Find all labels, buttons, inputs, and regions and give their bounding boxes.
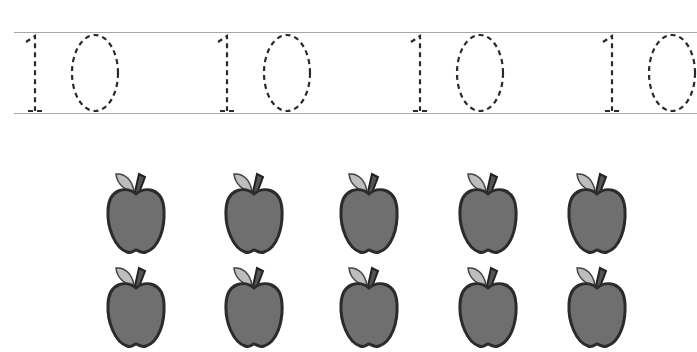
dashed-ten-icon (599, 32, 697, 114)
apple (566, 170, 628, 256)
apple (223, 170, 285, 256)
apple-icon (338, 170, 400, 256)
apple-icon (566, 170, 628, 256)
apple (105, 170, 167, 256)
apple-icon (566, 264, 628, 350)
apple (457, 170, 519, 256)
apple-icon (223, 170, 285, 256)
dashed-ten-icon (214, 32, 314, 114)
traceable-number-ten (214, 32, 314, 114)
apple-icon (223, 264, 285, 350)
apple (223, 264, 285, 350)
apple-icon (457, 264, 519, 350)
apple (566, 264, 628, 350)
dashed-ten-icon (22, 32, 122, 114)
apple-icon (105, 170, 167, 256)
traceable-number-ten (599, 32, 697, 114)
apple (338, 170, 400, 256)
apple (457, 264, 519, 350)
traceable-number-ten (22, 32, 122, 114)
apple (105, 264, 167, 350)
dashed-ten-icon (407, 32, 507, 114)
apple-icon (457, 170, 519, 256)
apple (338, 264, 400, 350)
traceable-number-ten (407, 32, 507, 114)
apple-icon (338, 264, 400, 350)
apple-icon (105, 264, 167, 350)
